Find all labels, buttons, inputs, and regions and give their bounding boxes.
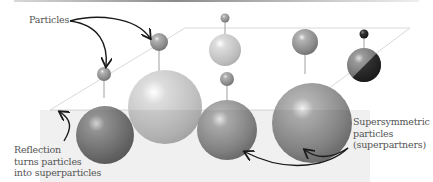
particles-label: Particles — [29, 14, 69, 26]
reflection-line-3: into superparticles — [14, 167, 101, 179]
superpartners-line-3: (superpartners) — [353, 139, 430, 151]
superpartners-line-2: particles — [353, 128, 430, 140]
reflection-line-2: turns particles — [14, 156, 101, 168]
particle-sphere-6 — [360, 30, 369, 39]
particle-sphere-1 — [97, 67, 111, 81]
particle-sphere-5 — [292, 29, 318, 55]
particle-sphere-4 — [220, 72, 234, 86]
superpartner-sphere-light — [209, 34, 241, 66]
superpartners-label: Supersymmetric particles (superpartners) — [353, 116, 430, 151]
particles-arrow-right — [70, 17, 150, 38]
particles-arrow-down — [70, 21, 106, 66]
reflection-label: Reflection turns particles into superpar… — [14, 144, 101, 179]
particle-sphere-3 — [221, 14, 230, 23]
reflection-line-1: Reflection — [14, 144, 101, 156]
superpartners-line-1: Supersymmetric — [353, 116, 430, 128]
particle-sphere-2 — [150, 33, 168, 51]
